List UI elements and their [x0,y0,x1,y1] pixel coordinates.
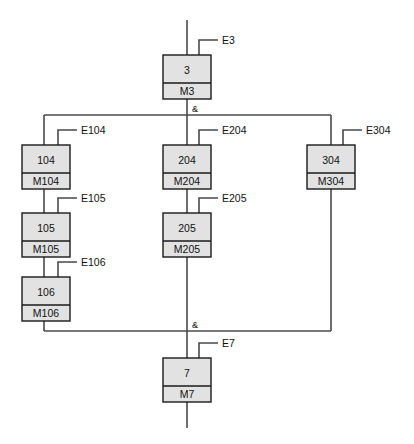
input-label-E104: E104 [81,124,106,136]
block-104-id: 104 [37,154,55,166]
block-304-id: 304 [322,154,340,166]
connector-E204 [199,130,218,145]
block-205[interactable]: 205 M205 [163,213,211,257]
join-amp-label: & [192,320,198,330]
block-3[interactable]: 3 M3 [163,55,211,99]
connector-E106 [58,262,77,277]
connector-E104 [58,130,77,145]
fork-amp-label: & [192,104,198,114]
block-105-mode: M105 [33,243,59,255]
block-3-mode: M3 [180,85,195,97]
connector-E105 [58,198,77,213]
input-label-E205: E205 [222,192,247,204]
input-label-E7: E7 [222,337,235,349]
input-label-E3: E3 [222,34,235,46]
block-205-mode: M205 [174,243,200,255]
connector-E7 [199,343,218,358]
block-7-mode: M7 [180,388,195,400]
block-7-id: 7 [184,367,190,379]
input-labels: E3 E104 E105 E106 E204 E205 E304 E7 [81,34,391,349]
input-label-E204: E204 [222,124,247,136]
input-label-E105: E105 [81,192,106,204]
block-204-mode: M204 [174,175,200,187]
connector-E205 [199,198,218,213]
block-105[interactable]: 105 M105 [22,213,70,257]
block-104[interactable]: 104 M104 [22,145,70,189]
block-106[interactable]: 106 M106 [22,277,70,321]
block-diagram: & & E3 E104 E105 [0,0,414,444]
block-106-id: 106 [37,286,55,298]
block-106-mode: M106 [33,307,59,319]
block-204-id: 204 [178,154,196,166]
block-3-id: 3 [184,64,190,76]
block-204[interactable]: 204 M204 [163,145,211,189]
block-104-mode: M104 [33,175,59,187]
connector-E3 [199,40,218,55]
block-7[interactable]: 7 M7 [163,358,211,402]
diagram-canvas: & & E3 E104 E105 [0,0,414,444]
input-label-E106: E106 [81,256,106,268]
connector-E304 [343,130,362,145]
block-304[interactable]: 304 M304 [307,145,355,189]
input-label-E304: E304 [366,124,391,136]
block-304-mode: M304 [318,175,344,187]
block-205-id: 205 [178,222,196,234]
block-105-id: 105 [37,222,55,234]
